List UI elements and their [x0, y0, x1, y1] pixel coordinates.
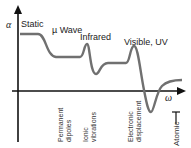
y-axis-arrow-icon: [14, 5, 22, 14]
x-axis-label: ω: [165, 93, 172, 102]
region-label-visible-uv: Visible, UV: [124, 38, 168, 47]
region-label-microwave: µ Wave: [52, 26, 82, 35]
region-label-static: Static: [21, 20, 44, 29]
mechanism-label-ionic-vibrations: Ionic vibrations: [82, 112, 97, 142]
y-axis-label: α: [6, 20, 11, 29]
mechanism-label-atomic: Atomic: [173, 122, 181, 146]
polarizability-diagram: α Static µ Wave Infrared Visible, UV ω P…: [0, 0, 191, 148]
mechanism-label-electronic-displacement: Electronic displacement: [127, 101, 142, 142]
mechanism-label-permanent-dipoles: Permanent dipoles: [57, 108, 72, 142]
x-axis-arrow-icon: [177, 87, 186, 95]
region-label-infrared: Infrared: [80, 33, 111, 42]
